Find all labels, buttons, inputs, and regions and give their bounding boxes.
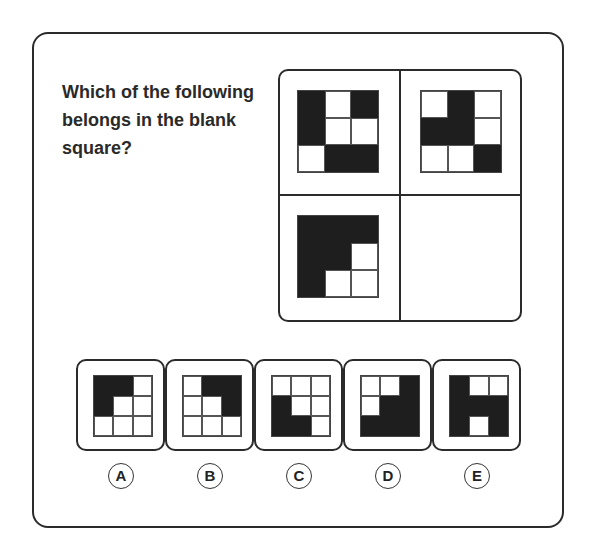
filled-square: [448, 118, 475, 145]
empty-square: [311, 376, 330, 396]
filled-square: [400, 396, 419, 416]
empty-square: [183, 396, 202, 416]
filled-square: [298, 270, 325, 297]
empty-square: [421, 91, 448, 118]
option-a-card[interactable]: [76, 359, 165, 451]
question-text: Which of the following belongs in the bl…: [62, 78, 272, 162]
pattern-grid: [297, 90, 379, 173]
empty-square: [291, 376, 310, 396]
pattern-grid: [360, 375, 420, 437]
empty-square: [361, 376, 380, 396]
empty-square: [311, 416, 330, 436]
pattern-grid: [297, 215, 379, 298]
empty-square: [291, 396, 310, 416]
empty-square: [133, 396, 152, 416]
filled-square: [94, 396, 113, 416]
empty-square: [474, 91, 501, 118]
empty-square: [222, 416, 241, 436]
empty-square: [133, 376, 152, 396]
empty-square: [380, 376, 399, 396]
filled-square: [351, 145, 378, 172]
empty-square: [183, 416, 202, 436]
filled-square: [222, 396, 241, 416]
filled-square: [298, 118, 325, 145]
filled-square: [450, 416, 469, 436]
filled-square: [380, 416, 399, 436]
puzzle-matrix: [278, 69, 522, 322]
option-b-card[interactable]: [165, 359, 254, 451]
empty-square: [325, 118, 352, 145]
empty-square: [311, 396, 330, 416]
filled-square: [469, 396, 488, 416]
filled-square: [351, 216, 378, 243]
matrix-cell-top-right: [401, 71, 522, 194]
filled-square: [298, 243, 325, 270]
filled-square: [94, 376, 113, 396]
empty-square: [113, 416, 132, 436]
empty-square: [351, 118, 378, 145]
filled-square: [325, 243, 352, 270]
pattern-grid: [420, 90, 502, 173]
filled-square: [291, 416, 310, 436]
filled-square: [298, 216, 325, 243]
pattern-grid: [182, 375, 242, 437]
empty-square: [351, 270, 378, 297]
filled-square: [272, 416, 291, 436]
filled-square: [113, 376, 132, 396]
empty-square: [351, 243, 378, 270]
empty-square: [325, 91, 352, 118]
filled-square: [474, 145, 501, 172]
filled-square: [421, 118, 448, 145]
filled-square: [400, 376, 419, 396]
empty-square: [183, 376, 202, 396]
empty-square: [202, 396, 221, 416]
empty-square: [325, 270, 352, 297]
filled-square: [489, 396, 508, 416]
option-e-card[interactable]: [432, 359, 521, 451]
filled-square: [361, 416, 380, 436]
matrix-cell-bottom-left: [280, 196, 399, 322]
empty-square: [469, 376, 488, 396]
empty-square: [113, 396, 132, 416]
filled-square: [202, 376, 221, 396]
empty-square: [489, 376, 508, 396]
filled-square: [351, 91, 378, 118]
filled-square: [450, 376, 469, 396]
filled-square: [325, 216, 352, 243]
filled-square: [400, 416, 419, 436]
matrix-cell-top-left: [280, 71, 399, 194]
empty-square: [474, 118, 501, 145]
empty-square: [94, 416, 113, 436]
option-c-card[interactable]: [254, 359, 343, 451]
empty-square: [202, 416, 221, 436]
empty-square: [448, 145, 475, 172]
empty-square: [272, 376, 291, 396]
filled-square: [222, 376, 241, 396]
option-e-label[interactable]: E: [464, 463, 490, 489]
pattern-grid: [271, 375, 331, 437]
pattern-grid: [449, 375, 509, 437]
empty-square: [361, 396, 380, 416]
option-b-label[interactable]: B: [197, 463, 223, 489]
option-a-label[interactable]: A: [108, 463, 134, 489]
empty-square: [133, 416, 152, 436]
option-c-label[interactable]: C: [286, 463, 312, 489]
empty-square: [421, 145, 448, 172]
filled-square: [380, 396, 399, 416]
filled-square: [272, 396, 291, 416]
matrix-cell-blank[interactable]: [401, 196, 522, 322]
filled-square: [489, 416, 508, 436]
empty-square: [469, 416, 488, 436]
filled-square: [450, 396, 469, 416]
filled-square: [325, 145, 352, 172]
filled-square: [298, 91, 325, 118]
option-d-card[interactable]: [343, 359, 432, 451]
empty-square: [298, 145, 325, 172]
option-d-label[interactable]: D: [375, 463, 401, 489]
pattern-grid: [93, 375, 153, 437]
filled-square: [448, 91, 475, 118]
